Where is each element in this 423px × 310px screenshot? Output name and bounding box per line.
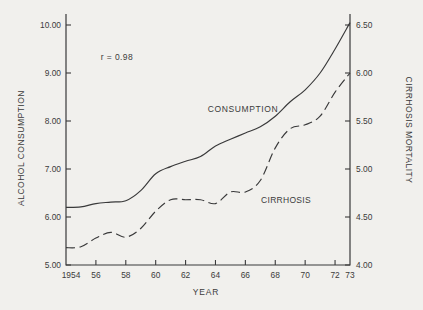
x-axis-tick-label: 58 xyxy=(121,270,131,280)
right-axis-tick-label: 5.00 xyxy=(356,164,373,174)
x-axis-tick-label: 60 xyxy=(151,270,161,280)
consumption-curve-label: CONSUMPTION xyxy=(208,104,278,114)
right-axis-tick-label: 6.00 xyxy=(356,68,373,78)
left-axis-tick-label: 8.00 xyxy=(45,116,62,126)
figure-root: 10.009.008.007.006.005.006.506.005.505.0… xyxy=(0,0,423,310)
correlation-annotation: r = 0.98 xyxy=(101,52,133,62)
right-axis-tick-label: 4.50 xyxy=(356,212,373,222)
right-axis-tick-label: 4.00 xyxy=(356,260,373,270)
x-axis-tick-label: 66 xyxy=(241,270,251,280)
right-axis-title: CIRRHOSIS MORTALITY xyxy=(404,77,414,184)
x-axis-tick-label: 72 xyxy=(330,270,340,280)
cirrhosis-curve-label: CIRRHOSIS xyxy=(261,195,311,205)
x-axis-tick-label: 64 xyxy=(211,270,221,280)
x-axis-title: YEAR xyxy=(193,287,219,297)
left-axis-tick-label: 6.00 xyxy=(45,212,62,222)
x-axis-tick-label: 73 xyxy=(345,270,355,280)
x-axis-tick-label: 56 xyxy=(91,270,101,280)
left-axis-tick-label: 5.00 xyxy=(45,260,62,270)
x-axis-tick-label: 68 xyxy=(271,270,281,280)
right-axis-tick-label: 5.50 xyxy=(356,116,373,126)
x-axis-tick-label: 70 xyxy=(300,270,310,280)
cirrhosis-line xyxy=(66,73,350,248)
left-axis-tick-label: 10.00 xyxy=(40,20,61,30)
x-axis-tick-label: 1954 xyxy=(62,270,81,280)
right-axis-tick-label: 6.50 xyxy=(356,20,373,30)
chart-canvas: 10.009.008.007.006.005.006.506.005.505.0… xyxy=(0,0,423,310)
left-axis-tick-label: 9.00 xyxy=(45,68,62,78)
left-axis-tick-label: 7.00 xyxy=(45,164,62,174)
consumption-line xyxy=(66,23,350,208)
x-axis-tick-label: 62 xyxy=(181,270,191,280)
left-axis-title: ALCOHOL CONSUMPTION xyxy=(16,90,26,206)
